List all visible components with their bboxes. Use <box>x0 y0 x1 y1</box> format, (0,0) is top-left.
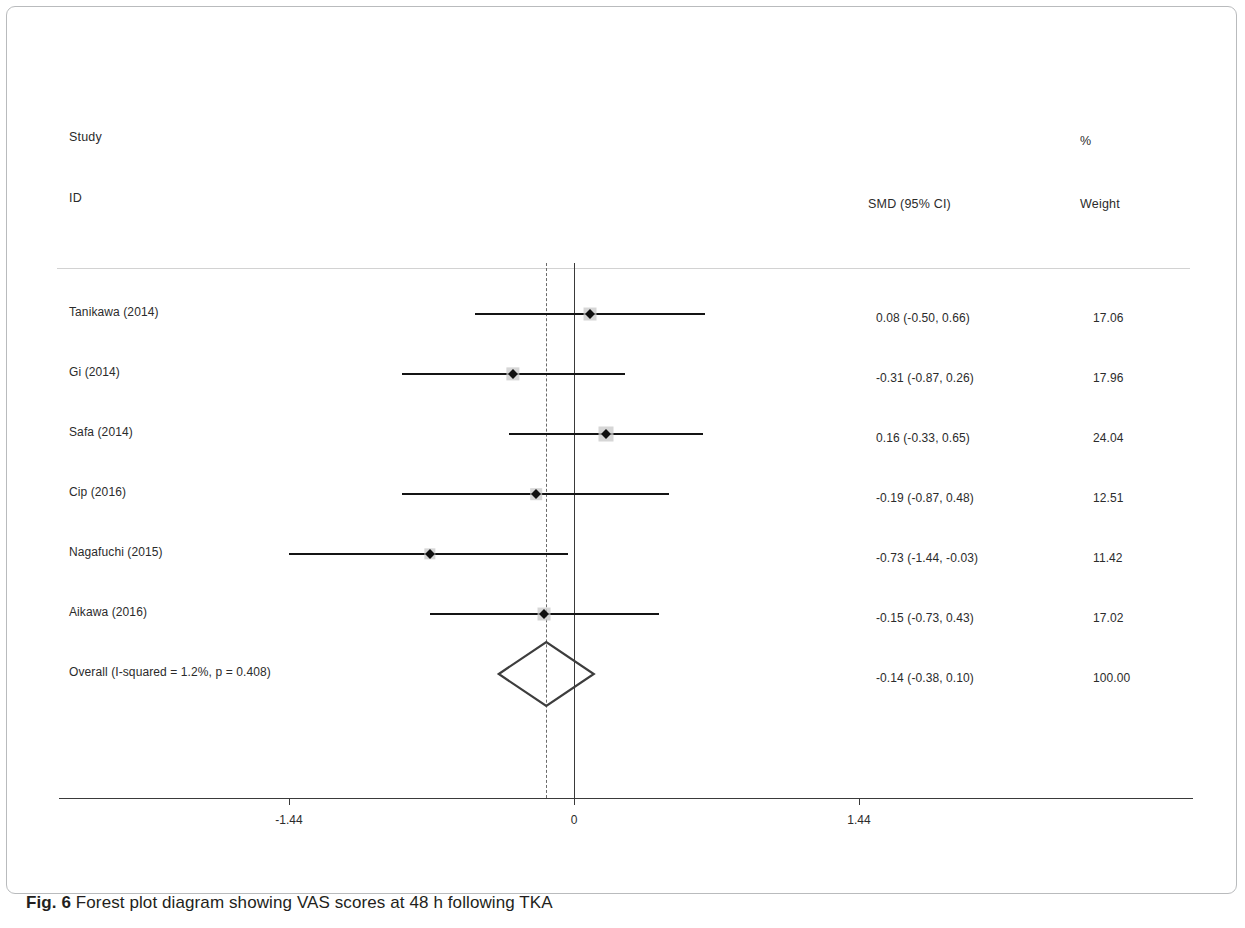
figure-number: Fig. 6 <box>26 893 71 912</box>
figure-caption-text: Forest plot diagram showing VAS scores a… <box>76 893 553 912</box>
x-axis-tick <box>574 798 575 805</box>
x-axis-tick-label: 0 <box>571 813 578 827</box>
summary-diamond <box>7 7 1238 867</box>
x-axis-tick <box>859 798 860 805</box>
x-axis-tick-label: -1.44 <box>275 813 302 827</box>
figure-caption: Fig. 6 Forest plot diagram showing VAS s… <box>26 893 1206 913</box>
x-axis-tick <box>289 798 290 805</box>
x-axis-line <box>59 798 1193 799</box>
x-axis-tick-label: 1.44 <box>847 813 870 827</box>
figure-frame: Study ID SMD (95% CI) % Weight Tanikawa … <box>6 6 1237 894</box>
forest-plot-canvas: Study ID SMD (95% CI) % Weight Tanikawa … <box>7 7 1238 867</box>
